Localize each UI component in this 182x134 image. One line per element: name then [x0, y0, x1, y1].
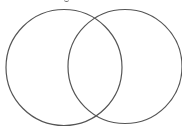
right-set-circle [68, 10, 182, 124]
venn-diagram [0, 0, 182, 134]
left-set-circle [6, 10, 122, 126]
venn-diagram-page: { "diagram": { "type": "venn", "backgrou… [0, 0, 182, 134]
